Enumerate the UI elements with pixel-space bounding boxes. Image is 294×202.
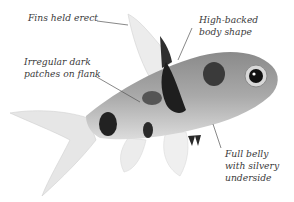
anal-fin [121, 138, 146, 172]
label-line: High-backed [199, 14, 258, 26]
label-fins-held-erect: Fins held erect [28, 12, 98, 24]
label-line: Full belly [225, 148, 279, 160]
label-line: patches on flank [24, 68, 101, 80]
label-full-belly: Full belly with silvery underside [225, 148, 279, 184]
label-line: underside [225, 172, 279, 184]
label-line: Irregular dark [24, 56, 101, 68]
fish-diagram: Fins held erect High-backed body shape I… [0, 0, 294, 202]
label-line: Fins held erect [28, 12, 98, 24]
tail-fin [10, 111, 96, 196]
label-irregular-patches: Irregular dark patches on flank [24, 56, 101, 80]
label-high-backed-body: High-backed body shape [199, 14, 258, 38]
label-line: with silvery [225, 160, 279, 172]
pelvic-fin [164, 132, 188, 176]
label-line: body shape [199, 26, 258, 38]
